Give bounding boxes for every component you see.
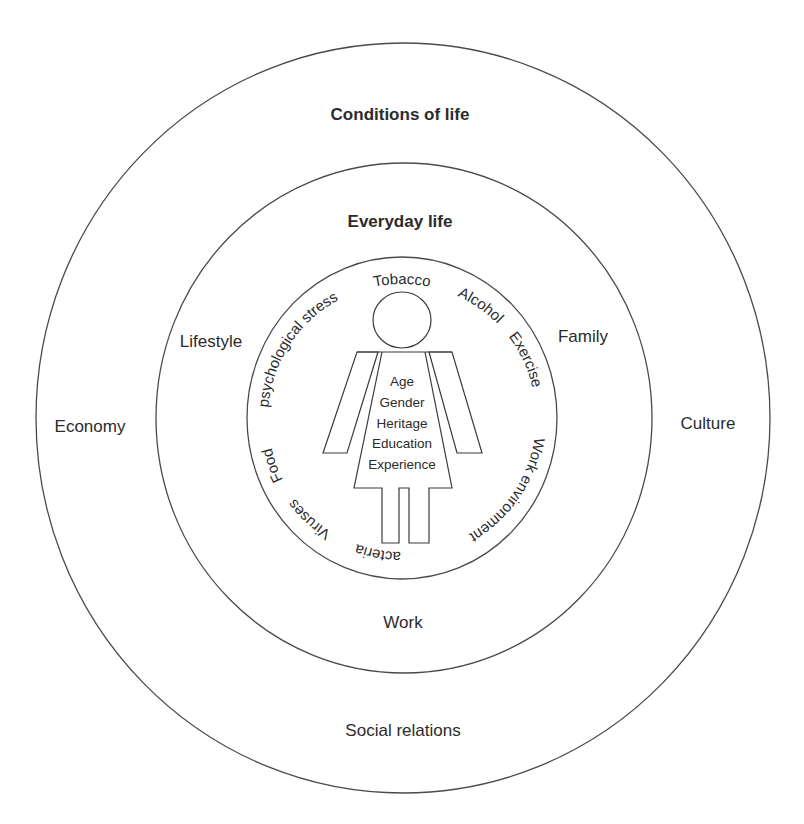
- outer-label-social-relations: Social relations: [345, 721, 460, 741]
- middle-ring-title: Everyday life: [348, 212, 453, 232]
- attribute-education: Education: [368, 434, 436, 455]
- person-attributes: Age Gender Heritage Education Experience: [368, 372, 436, 476]
- outer-ring-title: Conditions of life: [331, 105, 470, 125]
- inner-ring-factors: Tobacco Alcohol Exercise Work environmen…: [0, 0, 549, 566]
- curved-label-exercise: Exercise: [506, 328, 546, 389]
- middle-label-family: Family: [558, 327, 608, 347]
- person-head: [373, 292, 431, 348]
- curved-label-tobacco: Tobacco: [372, 270, 432, 290]
- attribute-experience: Experience: [368, 455, 436, 476]
- attribute-age: Age: [368, 372, 436, 393]
- attribute-heritage: Heritage: [368, 414, 436, 435]
- curved-label-food: Food: [258, 447, 286, 486]
- outer-label-economy: Economy: [55, 417, 126, 437]
- curved-label-viruses: Viruses: [284, 497, 333, 544]
- middle-label-lifestyle: Lifestyle: [180, 332, 242, 352]
- outer-label-culture: Culture: [681, 414, 736, 434]
- curved-label-psychological-stress: psychological stress: [254, 288, 340, 408]
- attribute-gender: Gender: [368, 393, 436, 414]
- middle-label-work: Work: [383, 613, 422, 633]
- person-right-arm: [429, 352, 482, 453]
- health-determinants-diagram: Tobacco Alcohol Exercise Work environmen…: [0, 0, 804, 824]
- curved-label-alcohol: Alcohol: [456, 283, 507, 326]
